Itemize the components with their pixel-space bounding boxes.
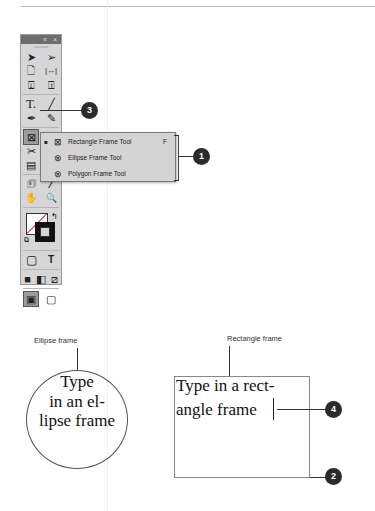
ellipse-frame-icon: ⊗ (51, 153, 64, 163)
frame-tool-flyout-menu: ■ ⊠ Rectangle Frame Tool F ⊗ Ellipse Fra… (40, 132, 176, 182)
ellipse-label-leader (77, 348, 78, 370)
divider (23, 207, 59, 208)
formatting-affects-text-icon[interactable]: T (43, 253, 59, 267)
selected-bullet-icon: ■ (41, 139, 51, 145)
gradient-swatch-tool-icon[interactable]: ▤ (23, 158, 39, 172)
divider (23, 127, 59, 128)
formatting-affects-container-icon[interactable]: ▢ (23, 253, 39, 267)
rectangle-frame-tool-icon[interactable]: ⊠ (23, 129, 39, 145)
divider (23, 250, 59, 251)
content-collector-tool-icon[interactable]: ⍗ (23, 78, 39, 92)
zoom-tool-icon[interactable]: 🔍 (43, 191, 59, 205)
callout-2: 2 (325, 468, 342, 485)
menu-item-label: Polygon Frame Tool (68, 170, 126, 177)
text-cursor (273, 398, 274, 420)
divider (23, 269, 59, 270)
swap-fill-stroke-icon[interactable]: ↰ (51, 212, 58, 221)
menu-item-label: Ellipse Frame Tool (68, 154, 121, 161)
fill-stroke-swatches: ↰ ⧉ (21, 210, 61, 248)
ellipse-frame-text[interactable]: Type in an el- lipse frame (26, 372, 128, 431)
divider (23, 94, 59, 95)
callout-3: 3 (81, 102, 98, 119)
divider (23, 288, 59, 289)
preview-mode-icon[interactable]: ▢ (43, 292, 59, 306)
scissors-tool-icon[interactable]: ✂ (23, 144, 39, 158)
shortcut-key: F (163, 138, 167, 145)
menu-item-rectangle-frame-tool[interactable]: ■ ⊠ Rectangle Frame Tool F (41, 134, 175, 149)
apply-color-icon[interactable]: ■ (21, 272, 34, 286)
content-placer-tool-icon[interactable]: ⍐ (43, 78, 59, 92)
panel-grip[interactable] (21, 44, 61, 50)
rectangle-label-leader (229, 346, 230, 376)
menu-item-label: Rectangle Frame Tool (68, 138, 131, 145)
default-fill-stroke-icon[interactable]: ⧉ (24, 236, 29, 244)
pencil-tool-icon[interactable]: ✎ (43, 111, 59, 125)
note-tool-icon[interactable]: 🗊 (23, 177, 39, 191)
hand-tool-icon[interactable]: ✋ (23, 191, 39, 205)
menu-item-ellipse-frame-tool[interactable]: ⊗ Ellipse Frame Tool (41, 150, 175, 165)
apply-none-icon[interactable]: ⧄ (48, 272, 61, 286)
pen-tool-icon[interactable]: ✒ (23, 111, 39, 125)
type-tool-icon[interactable]: T. (23, 97, 39, 111)
direct-selection-tool-icon[interactable]: ➢ (43, 50, 59, 64)
menu-item-polygon-frame-tool[interactable]: ⊗ Polygon Frame Tool (41, 166, 175, 181)
callout-4: 4 (325, 401, 342, 418)
top-rule (21, 6, 375, 7)
rectangle-frame-icon: ⊠ (51, 137, 64, 147)
rectangle-frame-text[interactable]: Type in a rect- angle frame (176, 374, 274, 422)
normal-view-icon[interactable]: ▣ (23, 291, 39, 307)
stroke-swatch[interactable] (35, 222, 55, 242)
polygon-frame-icon: ⊗ (51, 169, 64, 179)
selection-tool-icon[interactable]: ➤ (23, 50, 39, 64)
line-tool-icon[interactable]: ╱ (43, 97, 59, 111)
tools-panel-titlebar[interactable]: « × (21, 35, 61, 44)
apply-gradient-icon[interactable]: ◧ (34, 272, 47, 286)
gap-tool-icon[interactable]: |↔| (43, 64, 59, 78)
callout-1: 1 (193, 148, 210, 165)
rectangle-frame-label: Rectangle frame (227, 334, 282, 343)
close-icon[interactable]: × (53, 35, 57, 44)
callout-4-leader (277, 409, 327, 410)
ellipse-frame-label: Ellipse frame (34, 336, 77, 345)
collapse-icon[interactable]: « (43, 35, 47, 44)
page-tool-icon[interactable]: 🗋 (23, 64, 39, 78)
callout-1-bracket (178, 135, 179, 180)
